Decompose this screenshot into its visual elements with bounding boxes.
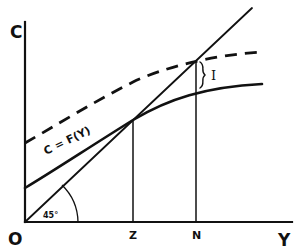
- angle-arc: [62, 185, 78, 222]
- forty-five-degree-line: [25, 8, 252, 222]
- tick-label-z: Z: [129, 229, 137, 242]
- y-axis-label: C: [10, 22, 22, 42]
- angle-label: 45°: [43, 211, 58, 220]
- consumption-function-diagram: C Y O Z N 45° C = F(Y) I: [0, 0, 301, 250]
- diagram-canvas: C Y O Z N 45° C = F(Y) I: [0, 0, 301, 250]
- shifted-consumption-curve: [25, 52, 262, 143]
- origin-label: O: [8, 229, 22, 249]
- x-axis-label: Y: [277, 230, 291, 250]
- tick-label-n: N: [192, 229, 201, 242]
- investment-gap-label: I: [211, 68, 216, 83]
- investment-gap-brace: [200, 62, 205, 88]
